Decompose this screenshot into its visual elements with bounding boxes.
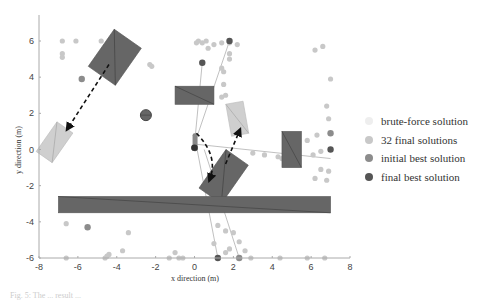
x-tick-label: 4 (270, 262, 275, 272)
legend-label: initial best solution (381, 152, 465, 164)
data-point (84, 224, 90, 230)
data-point (221, 69, 226, 74)
legend-item: 32 final solutions (365, 131, 468, 150)
data-point (60, 55, 65, 60)
data-point (211, 42, 216, 47)
robot-marker (191, 144, 197, 150)
data-point (242, 248, 247, 253)
y-tick-label: 2 (29, 108, 34, 118)
data-point (215, 223, 220, 228)
data-point (219, 40, 224, 45)
data-point (326, 169, 331, 174)
data-point (73, 38, 78, 43)
data-point (227, 56, 232, 61)
legend-item: initial best solution (365, 149, 468, 168)
data-point (327, 130, 333, 136)
x-axis-label: x direction (m) (171, 274, 219, 283)
obstacle-box (175, 86, 214, 104)
obstacle-box (282, 131, 301, 167)
data-point (211, 241, 216, 246)
legend-item: final best solution (365, 168, 468, 187)
target-box (36, 122, 73, 163)
data-point (326, 116, 331, 121)
obstacle-box (199, 150, 248, 204)
tick-labels: -8-6-4-202468-6-4-20246 (26, 36, 353, 272)
target-box (226, 101, 249, 136)
y-tick-label: -2 (26, 181, 34, 191)
data-point (60, 38, 65, 43)
data-point (219, 94, 224, 99)
x-tick-label: -8 (35, 262, 43, 272)
obstacle-box (88, 29, 141, 85)
data-point (221, 82, 226, 87)
y-tick-label: -6 (26, 253, 34, 263)
x-tick-label: 8 (347, 262, 352, 272)
y-tick-label: -4 (26, 217, 34, 227)
data-point (324, 178, 329, 183)
data-point (324, 104, 329, 109)
data-point (226, 38, 232, 44)
legend-label: final best solution (381, 171, 460, 183)
y-tick-label: 4 (29, 72, 34, 82)
y-tick-label: 6 (29, 36, 34, 46)
data-point (312, 176, 317, 181)
data-point (126, 230, 131, 235)
data-point (223, 228, 228, 233)
dashed-arrow (196, 133, 212, 178)
x-tick-label: 2 (231, 262, 236, 272)
data-point (99, 38, 104, 43)
data-point (199, 60, 205, 66)
x-tick-label: 0 (192, 262, 197, 272)
data-point (149, 64, 154, 69)
data-point (320, 44, 325, 49)
data-point (318, 149, 323, 154)
legend-label: 32 final solutions (381, 134, 457, 146)
figure-caption: Fig. 5: The ... result ... (10, 291, 81, 300)
data-point (328, 76, 333, 81)
data-point (206, 46, 211, 51)
legend-marker-icon (365, 136, 373, 144)
x-tick-label: -4 (113, 262, 121, 272)
data-point (223, 250, 228, 255)
obstacle-box (58, 197, 330, 213)
data-point (227, 246, 232, 251)
x-tick-label: 6 (309, 262, 314, 272)
data-point (318, 167, 323, 172)
data-point (327, 146, 333, 152)
data-point (204, 38, 209, 43)
legend-marker-icon (365, 117, 373, 125)
data-point (79, 76, 85, 82)
legend-label: brute-force solution (381, 115, 468, 127)
data-point (64, 221, 69, 226)
legend-marker-icon (365, 173, 373, 181)
data-point (231, 230, 236, 235)
data-point (172, 250, 177, 255)
legend-marker-icon (365, 154, 373, 162)
data-point (312, 47, 317, 52)
data-point (250, 151, 255, 156)
legend-item: brute-force solution (365, 112, 468, 131)
data-point (314, 132, 319, 137)
data-point (227, 51, 232, 56)
x-tick-label: -6 (74, 262, 82, 272)
data-point (235, 42, 240, 47)
y-tick-label: 0 (29, 145, 34, 155)
plot-area (36, 29, 334, 261)
data-point (262, 152, 267, 157)
y-axis-label: y direction (m) (14, 126, 23, 174)
data-point (310, 152, 315, 157)
x-tick-label: -2 (152, 262, 160, 272)
data-point (120, 248, 125, 253)
data-point (305, 138, 310, 143)
data-point (237, 239, 242, 244)
legend: brute-force solution32 final solutionsin… (365, 112, 468, 186)
